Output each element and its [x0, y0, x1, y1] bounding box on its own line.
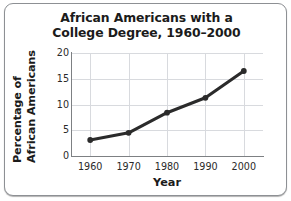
x-axis-label: Year [71, 176, 263, 189]
y-axis-label-line-1: Percentage of [11, 76, 24, 163]
x-axis-line [71, 156, 264, 157]
y-tick-15: 15 [47, 74, 69, 84]
plot-area [71, 53, 263, 156]
x-axis-tick-labels: 19601970198019902000 [71, 161, 263, 175]
chart-title-line-1: African Americans with a [19, 11, 274, 26]
data-point-1960 [87, 137, 93, 143]
line-series [71, 53, 263, 156]
x-tick-2000: 2000 [224, 161, 264, 172]
y-tick-20: 20 [47, 48, 69, 58]
data-point-2000 [241, 68, 247, 74]
y-axis-label-line-2: African Americans [25, 50, 38, 163]
data-point-1970 [126, 130, 132, 136]
y-tick-10: 10 [47, 100, 69, 110]
x-tick-1990: 1990 [185, 161, 225, 172]
y-axis-tick-labels: 05101520 [45, 53, 69, 156]
data-point-1990 [203, 95, 209, 101]
chart-title: African Americans with a College Degree,… [19, 11, 274, 40]
chart-title-line-2: College Degree, 1960–2000 [19, 26, 274, 41]
y-tick-5: 5 [47, 125, 69, 135]
series-line [90, 71, 244, 140]
x-tick-1970: 1970 [109, 161, 149, 172]
x-tick-1960: 1960 [70, 161, 110, 172]
x-tick-1980: 1980 [147, 161, 187, 172]
data-point-1980 [164, 110, 170, 116]
chart-card: African Americans with a College Degree,… [4, 3, 287, 196]
y-tick-0: 0 [47, 151, 69, 161]
